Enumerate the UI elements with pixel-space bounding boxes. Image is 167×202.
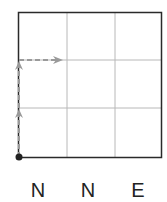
grid-diagram — [0, 0, 167, 178]
inner-grid-lines — [18, 12, 161, 157]
label-move-1: N — [26, 178, 50, 202]
start-dot — [16, 154, 23, 161]
label-move-2: N — [76, 178, 100, 202]
label-move-3: E — [126, 178, 150, 202]
direction-labels: N N E — [0, 178, 167, 202]
grid-outer-border — [19, 13, 162, 158]
